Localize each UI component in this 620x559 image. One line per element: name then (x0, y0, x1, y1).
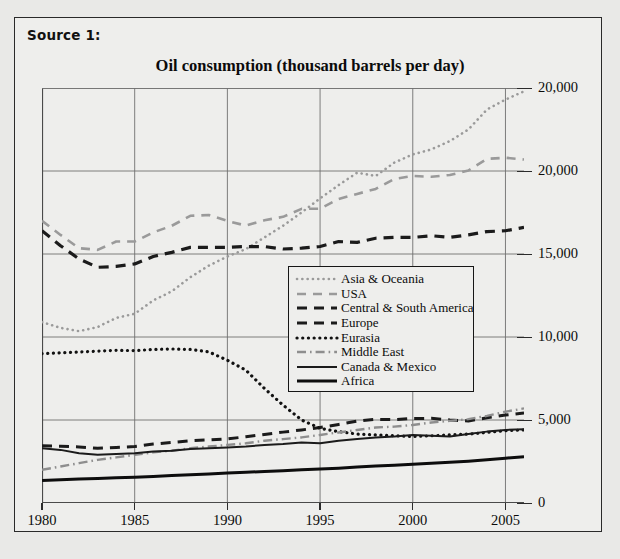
y-tick-label: 20,000 (538, 162, 578, 179)
x-tick-mark (227, 503, 228, 510)
x-tick-label: 2005 (491, 512, 520, 529)
legend-label: Eurasia (339, 330, 380, 346)
y-tick-mark (517, 503, 532, 504)
legend-swatch (295, 273, 339, 285)
y-tick-mark (517, 88, 532, 89)
legend-swatch (295, 317, 339, 329)
legend-label: Asia & Oceania (339, 271, 424, 287)
legend-swatch (295, 375, 339, 387)
x-tick-label: 2000 (398, 512, 427, 529)
y-tick-label: 20,000 (538, 79, 578, 96)
legend-swatch (295, 302, 339, 314)
y-tick-mark (517, 171, 532, 172)
x-tick-label: 1995 (306, 512, 335, 529)
x-tick-mark (134, 503, 135, 510)
legend-item[interactable]: Middle East (295, 345, 473, 360)
source-label: Source 1: (27, 27, 101, 43)
y-tick-mark (517, 420, 532, 421)
y-tick-label: 0 (538, 494, 545, 511)
legend-item[interactable]: Asia & Oceania (295, 272, 473, 287)
x-tick-mark (505, 503, 506, 510)
y-tick-mark (517, 254, 532, 255)
legend-label: Canada & Mexico (339, 359, 436, 375)
legend-label: USA (339, 286, 367, 302)
legend-swatch (295, 346, 339, 358)
legend-item[interactable]: Eurasia (295, 330, 473, 345)
legend-swatch (295, 332, 339, 344)
x-tick-mark (412, 503, 413, 510)
legend-label: Middle East (339, 344, 404, 360)
series-line-europe (42, 227, 524, 267)
series-line-middle-east (42, 408, 524, 469)
page-root: Source 1: Oil consumption (thousand barr… (0, 0, 620, 559)
x-tick-mark (319, 503, 320, 510)
legend-item[interactable]: Europe (295, 316, 473, 331)
y-tick-label: 5,000 (538, 411, 571, 428)
legend-item[interactable]: Africa (295, 374, 473, 389)
bleed-through-text (300, 2, 600, 14)
chart-legend: Asia & OceaniaUSACentral & South America… (288, 266, 474, 392)
legend-item[interactable]: Central & South America (295, 301, 473, 316)
legend-label: Central & South America (339, 300, 474, 316)
legend-item[interactable]: USA (295, 287, 473, 302)
y-tick-label: 15,000 (538, 245, 578, 262)
series-line-central-south-america (42, 413, 524, 448)
x-tick-label: 1980 (28, 512, 57, 529)
series-line-africa (42, 457, 524, 481)
legend-swatch (295, 361, 339, 373)
x-tick-label: 1990 (213, 512, 242, 529)
legend-label: Africa (339, 373, 374, 389)
x-tick-mark (41, 503, 42, 510)
chart-title: Oil consumption (thousand barrels per da… (0, 56, 620, 76)
x-tick-label: 1985 (120, 512, 149, 529)
y-tick-label: 10,000 (538, 328, 578, 345)
legend-label: Europe (339, 315, 379, 331)
y-tick-mark (517, 337, 532, 338)
legend-item[interactable]: Canada & Mexico (295, 360, 473, 375)
legend-swatch (295, 288, 339, 300)
